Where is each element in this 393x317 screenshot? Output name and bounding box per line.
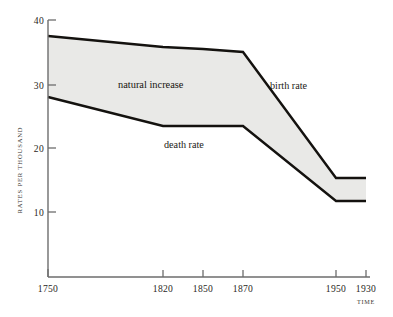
- natural-increase-label: natural increase: [118, 79, 184, 90]
- x-tick-label-1870: 1870: [233, 283, 253, 294]
- x-tick-label-1820: 1820: [153, 283, 173, 294]
- x-tick-label-1750: 1750: [38, 283, 58, 294]
- y-axis-title: RATES PER THOUSAND: [16, 127, 23, 214]
- x-tick-label-1980: 1930: [356, 283, 376, 294]
- natural-increase-band: [48, 36, 366, 201]
- x-tick-label-1950: 1950: [326, 283, 346, 294]
- birth-rate-label: birth rate: [270, 80, 308, 91]
- y-tick-label-30: 30: [34, 80, 44, 91]
- x-tick-label-1850: 1850: [193, 283, 213, 294]
- death-rate-label: death rate: [164, 139, 204, 150]
- y-tick-label-40: 40: [34, 15, 44, 26]
- y-tick-label-10: 10: [34, 207, 44, 218]
- demographic-transition-chart: 40 30 20 10 1750 1820 1850 1870 1950 193…: [0, 0, 393, 317]
- y-tick-label-20: 20: [34, 143, 44, 154]
- x-axis-title: TIME: [357, 298, 375, 305]
- chart-canvas: 40 30 20 10 1750 1820 1850 1870 1950 193…: [0, 0, 393, 317]
